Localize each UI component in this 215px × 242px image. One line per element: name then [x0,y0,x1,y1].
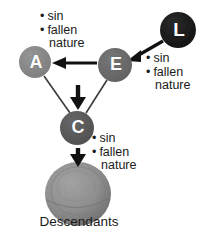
node-e-circle[interactable] [98,48,132,82]
bullet-icon: • [92,131,96,145]
note-middle-item-1-text: fallen [99,145,129,159]
node-l-circle[interactable] [160,12,196,48]
arrow-E-to-C [70,85,86,110]
note-middle: •sin •fallen nature [92,132,136,173]
note-top-item-1: •fallen [40,24,84,38]
note-right-item-0-text: sin [153,51,169,65]
diagram-canvas: L A E C •sin •fallen nature •sin •fallen… [0,0,215,242]
bullet-icon: • [40,9,44,23]
note-middle-item-0: •sin [92,132,136,146]
note-right: •sin •fallen nature [146,52,190,93]
note-middle-item-0-text: sin [99,131,115,145]
diagram-graphics [0,0,215,242]
note-top-item-0-text: sin [47,9,63,23]
bullet-icon: • [146,65,150,79]
note-top: •sin •fallen nature [40,10,84,51]
note-top-continuation: nature [40,37,84,51]
note-middle-item-1: •fallen [92,146,136,160]
note-right-item-1: •fallen [146,66,190,80]
bullet-icon: • [146,51,150,65]
node-a-circle[interactable] [19,46,51,78]
arrow-E-to-A [52,57,97,69]
note-middle-continuation: nature [92,159,136,173]
bullet-icon: • [40,23,44,37]
note-right-item-1-text: fallen [153,65,183,79]
note-right-item-0: •sin [146,52,190,66]
line-E-to-C [86,80,107,113]
note-right-continuation: nature [146,79,190,93]
descendants-caption: Descendants [24,214,134,229]
note-top-item-0: •sin [40,10,84,24]
bullet-icon: • [92,145,96,159]
node-c-circle[interactable] [60,111,94,145]
line-A-to-C [44,76,70,113]
note-top-item-1-text: fallen [47,23,77,37]
